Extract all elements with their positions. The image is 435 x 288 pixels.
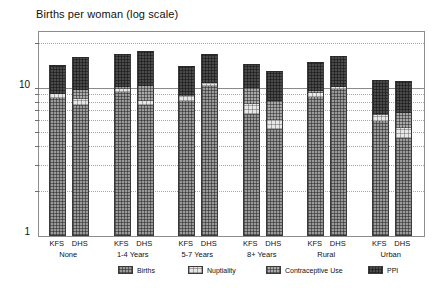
x-sublabel-kfs: KFS (307, 239, 322, 248)
bar-segment-births (307, 97, 324, 236)
x-group-label-rural: Rural (317, 250, 335, 259)
bar-segment-nuptiality (137, 101, 154, 105)
bar-segment-ppi (178, 66, 195, 95)
bar-segment-nuptiality (72, 99, 89, 105)
legend-item-contraceptive-use: Contraceptive Use (266, 264, 343, 276)
bar-segment-births (178, 101, 195, 236)
bar-urban-dhs (395, 81, 412, 236)
bar-segment-nuptiality (372, 115, 389, 121)
bar-segment-births (395, 138, 412, 236)
bar-urban-kfs (372, 80, 389, 236)
x-group-label-5-7-years: 5-7 Years (181, 250, 213, 259)
bar-none-kfs (49, 65, 66, 236)
legend-swatch-ppi (368, 266, 383, 274)
legend-label: Births (137, 267, 155, 274)
bar-rural-kfs (307, 62, 324, 236)
bar-segment-births (243, 114, 260, 236)
x-sublabel-dhs: DHS (330, 239, 346, 248)
y-tick-10 (35, 88, 39, 89)
bar-segment-contraceptive-use (137, 86, 154, 100)
bar-segment-contraceptive-use (201, 83, 218, 84)
legend-item-nuptiality: Nuptiality (188, 264, 236, 276)
legend-swatch-contraceptive-use (266, 266, 281, 274)
x-sublabel-kfs: KFS (178, 239, 193, 248)
gridline-3 (39, 165, 424, 166)
bar-segment-ppi (330, 56, 347, 87)
bar-segment-ppi (137, 51, 154, 86)
bar-segment-nuptiality (49, 94, 66, 98)
y-axis-label-10: 10 (19, 78, 30, 89)
legend-label: Contraceptive Use (285, 267, 343, 274)
bar-segment-contraceptive-use (243, 88, 260, 104)
gridline-10 (39, 88, 424, 89)
bar-rural-dhs (330, 56, 347, 236)
x-sublabel-kfs: KFS (49, 239, 64, 248)
bar-segment-contraceptive-use (114, 87, 131, 89)
gridline-7 (39, 110, 424, 111)
legend-swatch-births (118, 266, 133, 274)
gridline-4 (39, 146, 424, 147)
bar-segment-nuptiality (395, 128, 412, 138)
legend-label: PPI (387, 267, 398, 274)
bar-segment-ppi (266, 71, 283, 101)
bar-segment-births (372, 121, 389, 236)
bar-segment-births (114, 92, 131, 236)
bar-segment-births (266, 129, 283, 236)
y-tick-6 (35, 120, 39, 121)
x-sublabel-dhs: DHS (265, 239, 281, 248)
gridline-5 (39, 132, 424, 133)
bar-segment-contraceptive-use (307, 91, 324, 93)
bar-none-dhs (72, 57, 89, 236)
y-tick-5 (35, 132, 39, 133)
bar-segment-nuptiality (201, 83, 218, 85)
y-tick-3 (35, 165, 39, 166)
bar-segment-contraceptive-use (266, 101, 283, 121)
bar-segment-births (72, 105, 89, 236)
bar-segment-ppi (307, 62, 324, 91)
bar-segment-contraceptive-use (178, 95, 195, 96)
gridline-2 (39, 191, 424, 192)
x-group-label-urban: Urban (381, 250, 401, 259)
plot-inner (39, 32, 424, 236)
x-sublabel-kfs: KFS (114, 239, 129, 248)
x-sublabel-kfs: KFS (243, 239, 258, 248)
bar-segment-contraceptive-use (372, 114, 389, 115)
bar-segment-contraceptive-use (395, 113, 412, 128)
chart-root: Births per woman (log scale) 110 KFSDHSN… (0, 0, 435, 288)
legend-item-births: Births (118, 264, 155, 276)
bar-segment-ppi (72, 57, 89, 90)
y-tick-20 (35, 43, 39, 44)
gridline-20 (39, 43, 424, 44)
bar-8-years-kfs (243, 64, 260, 236)
chart-legend: BirthsNuptialityContraceptive UsePPI (38, 264, 425, 278)
y-tick-9 (35, 94, 39, 95)
bar-1-4-years-kfs (114, 54, 131, 236)
chart-title: Births per woman (log scale) (36, 8, 178, 20)
x-axis-labels: KFSDHSNoneKFSDHS1-4 YearsKFSDHS5-7 Years… (38, 239, 425, 263)
bar-segment-nuptiality (307, 93, 324, 97)
y-tick-2 (35, 191, 39, 192)
x-group-label-1-4-years: 1-4 Years (117, 250, 149, 259)
plot-area (38, 31, 425, 237)
y-axis-label-1: 1 (24, 226, 30, 237)
bar-segment-nuptiality (178, 96, 195, 100)
x-sublabel-dhs: DHS (201, 239, 217, 248)
x-group-label-8-years: 8+ Years (247, 250, 276, 259)
bar-segment-births (49, 98, 66, 236)
x-sublabel-dhs: DHS (72, 239, 88, 248)
gridline-6 (39, 120, 424, 121)
x-sublabel-dhs: DHS (136, 239, 152, 248)
bar-5-7-years-kfs (178, 66, 195, 236)
y-tick-8 (35, 102, 39, 103)
bar-segment-nuptiality (114, 89, 131, 92)
bar-1-4-years-dhs (137, 51, 154, 236)
bar-segment-nuptiality (266, 120, 283, 129)
bar-segment-ppi (49, 65, 66, 94)
gridline-9 (39, 94, 424, 95)
bar-segment-ppi (114, 54, 131, 87)
bar-segment-ppi (372, 80, 389, 114)
legend-item-ppi: PPI (368, 264, 398, 276)
y-tick-4 (35, 146, 39, 147)
bar-segment-nuptiality (330, 87, 347, 90)
legend-label: Nuptiality (207, 267, 236, 274)
